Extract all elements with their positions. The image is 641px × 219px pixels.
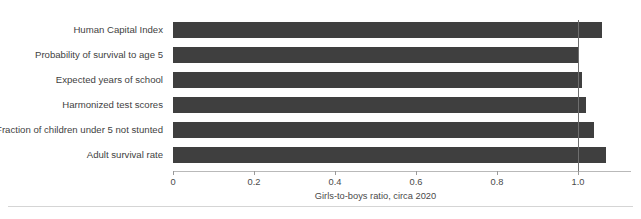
x-axis-tick-label: 0.4 xyxy=(329,177,342,187)
bar xyxy=(173,47,578,63)
x-axis-line xyxy=(173,171,631,172)
plot-area xyxy=(173,22,578,170)
x-axis-tick xyxy=(416,171,417,175)
category-label: Adult survival rate xyxy=(87,147,163,163)
bar xyxy=(173,22,602,38)
x-axis-tick xyxy=(173,171,174,175)
category-label: Expected years of school xyxy=(56,72,163,88)
bar xyxy=(173,147,606,163)
x-axis-title-row: Girls-to-boys ratio, circa 2020 xyxy=(0,191,641,201)
bar xyxy=(173,72,582,88)
category-label: Probability of survival to age 5 xyxy=(35,47,163,63)
category-label: Fraction of children under 5 not stunted xyxy=(0,122,163,138)
x-axis-tick-label: 0.2 xyxy=(248,177,261,187)
x-axis-tick-label: 0.8 xyxy=(491,177,504,187)
bottom-divider xyxy=(8,206,633,207)
x-axis-tick xyxy=(254,171,255,175)
bar xyxy=(173,97,586,113)
x-axis-tick xyxy=(497,171,498,175)
x-axis-tick xyxy=(578,171,579,175)
x-axis-tick-label: 0 xyxy=(170,177,175,187)
bar xyxy=(173,122,594,138)
figure-title: Figure 1. Gender gaps in human capital c… xyxy=(8,0,508,3)
figure-root: Figure 1. Gender gaps in human capital c… xyxy=(0,0,641,219)
x-axis-tick-label: 0.6 xyxy=(410,177,423,187)
category-label: Harmonized test scores xyxy=(62,97,163,113)
x-axis-tick xyxy=(335,171,336,175)
reference-line-1-0 xyxy=(578,20,579,172)
x-axis-tick-label: 1.0 xyxy=(572,177,585,187)
category-label-column: Human Capital Index Probability of survi… xyxy=(0,22,168,170)
category-label: Human Capital Index xyxy=(73,22,163,38)
x-axis-title: Girls-to-boys ratio, circa 2020 xyxy=(315,191,436,201)
bars-layer xyxy=(173,22,578,170)
